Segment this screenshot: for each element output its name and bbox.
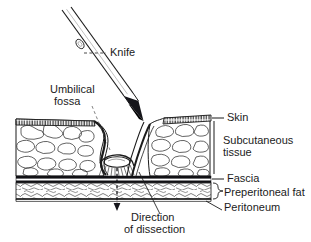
- label-fascia: Fascia: [227, 172, 259, 184]
- label-umbilical-fossa-line2: fossa: [54, 95, 80, 107]
- label-umbilical-fossa-line1: Umbilical: [50, 83, 95, 95]
- label-subcutaneous-line2: tissue: [223, 146, 252, 158]
- label-skin: Skin: [227, 111, 248, 123]
- subcutaneous-tissue-left: [16, 119, 104, 177]
- label-peritoneum: Peritoneum: [224, 201, 280, 213]
- label-subcutaneous-line1: Subcutaneous: [223, 134, 293, 146]
- label-direction-line1: Direction: [131, 211, 174, 223]
- subcutaneous-tissue-right: [148, 116, 210, 177]
- label-direction-line2: of dissection: [124, 223, 185, 235]
- label-preperitoneal-fat: Preperitoneal fat: [224, 186, 305, 198]
- anatomy-figure: Knife Umbilical fossa Skin Subcutaneous …: [0, 0, 311, 242]
- fascia-layer: [16, 176, 211, 183]
- preperitoneal-fat-layer: [16, 183, 211, 199]
- label-knife: Knife: [110, 46, 135, 58]
